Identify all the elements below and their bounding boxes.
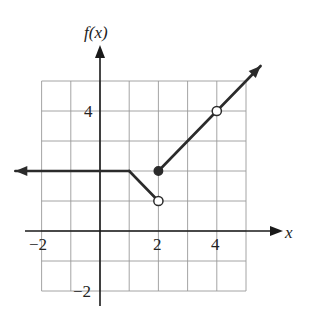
curve-segment bbox=[129, 171, 158, 201]
x-axis-label: x bbox=[284, 223, 293, 242]
x-tick-label-neg2: −2 bbox=[29, 235, 47, 254]
x-tick-label-4: 4 bbox=[211, 235, 220, 254]
y-axis-arrow-icon bbox=[95, 45, 105, 58]
curve-segment bbox=[158, 66, 260, 171]
y-tick-label-neg2: −2 bbox=[73, 282, 91, 301]
y-axis-label: f(x) bbox=[84, 23, 108, 42]
function-graph: x f(x) −2 2 4 4 −2 bbox=[0, 0, 310, 313]
curve-arrow-icon bbox=[15, 166, 27, 176]
filled-dot-marker bbox=[154, 167, 162, 175]
open-circle-marker bbox=[212, 106, 221, 115]
x-tick-label-2: 2 bbox=[153, 235, 162, 254]
function-curves bbox=[15, 66, 260, 201]
x-axis-arrow-icon bbox=[270, 226, 283, 236]
open-circle-marker bbox=[154, 196, 163, 205]
y-tick-label-4: 4 bbox=[84, 102, 93, 121]
